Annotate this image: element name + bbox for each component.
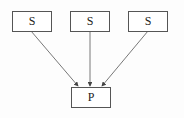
node-label: S <box>87 14 94 29</box>
edge-left-to-p <box>31 31 78 86</box>
target-node-p: P <box>71 87 111 108</box>
diagram-canvas: S S S P <box>0 0 184 118</box>
source-node-middle: S <box>70 11 110 32</box>
node-label: P <box>88 90 95 105</box>
node-label: S <box>145 14 152 29</box>
node-label: S <box>29 14 36 29</box>
source-node-left: S <box>12 11 52 32</box>
source-node-right: S <box>128 11 168 32</box>
edge-right-to-p <box>102 31 148 86</box>
